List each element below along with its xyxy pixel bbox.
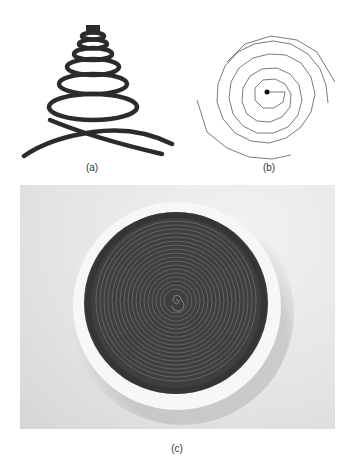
panel-a-conical-helix	[10, 20, 175, 165]
conical-helix-figure	[10, 20, 175, 165]
panel-c-photo	[20, 185, 335, 429]
coil-dish-photo	[20, 185, 335, 429]
panel-c-label: (c)	[157, 443, 197, 454]
planar-spiral-figure	[187, 22, 342, 162]
panel-b-planar-spiral	[187, 22, 342, 162]
panel-b-label: (b)	[249, 162, 289, 173]
panel-a-label: (a)	[72, 162, 112, 173]
spiral-center-dot	[265, 90, 270, 95]
